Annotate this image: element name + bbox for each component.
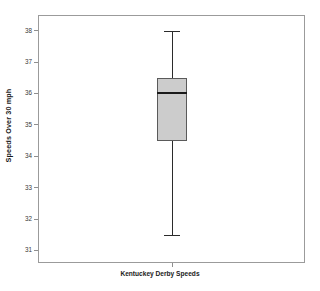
whisker-upper [172,31,173,78]
box-iqr [157,78,187,141]
boxplot-chart: Speeds Over 30 mph 3132333435363738 Kent… [0,0,320,291]
median-line [157,92,187,94]
whisker-cap-upper [164,31,180,32]
whisker-lower [172,141,173,235]
whisker-cap-lower [164,235,180,236]
x-axis-label: Kentuckey Derby Speeds [0,270,320,277]
x-axis-tick [172,263,173,267]
boxplot-series [0,0,320,291]
